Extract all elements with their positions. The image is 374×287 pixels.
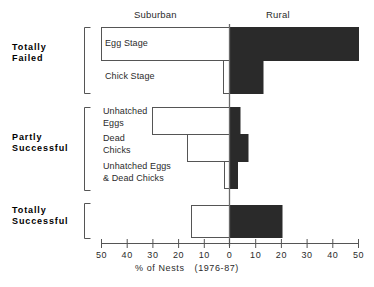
tick-label-zero: 0 — [217, 250, 243, 260]
group-label-line1: Partly — [12, 132, 69, 143]
bar-label-unhatched-eggs: Unhatched Eggs — [103, 106, 147, 129]
bar-rural-unhatched-eggs-and-dead-chicks — [230, 162, 238, 189]
bar-label-line2: Chicks — [103, 145, 131, 157]
group-bracket-totally-failed — [85, 28, 91, 94]
x-axis — [102, 239, 359, 248]
tick-label-minus-40: 40 — [114, 250, 140, 260]
bar-row-dead-chicks — [188, 135, 249, 162]
bar-rural-dead-chicks — [230, 135, 249, 162]
tick-label-minus-50: 50 — [89, 250, 115, 260]
tick-label-minus-10: 10 — [191, 250, 217, 260]
bar-row-unhatched-eggs — [153, 108, 241, 135]
tick-label-plus-40: 40 — [320, 250, 346, 260]
bar-row-totally-successful — [192, 206, 283, 238]
bar-suburban-chick-stage — [224, 61, 230, 94]
tick-label-plus-50: 50 — [346, 250, 372, 260]
bar-row-unhatched-eggs-and-dead-chicks — [225, 162, 238, 189]
group-label-line2: Failed — [12, 53, 47, 64]
bar-rural-egg-stage — [230, 28, 359, 61]
group-label-line2: Successful — [12, 143, 69, 154]
bar-rural-totally-successful — [230, 206, 283, 238]
bar-label-chick-stage: Chick Stage — [105, 71, 155, 83]
group-label-line2: Successful — [12, 216, 69, 227]
bar-label-line1: Unhatched Eggs — [103, 161, 171, 173]
group-label-totally-failed: Totally Failed — [12, 42, 47, 64]
tick-label-minus-20: 20 — [166, 250, 192, 260]
region-header-suburban: Suburban — [134, 9, 177, 20]
tick-label-minus-30: 30 — [140, 250, 166, 260]
bar-rural-chick-stage — [230, 61, 264, 94]
group-label-totally-successful: Totally Successful — [12, 205, 69, 227]
group-label-line1: Totally — [12, 42, 47, 53]
bar-label-egg-stage: Egg Stage — [105, 38, 148, 50]
bar-label-line1: Dead — [103, 133, 131, 145]
axis-title: % of Nests(1976-87) — [0, 263, 374, 273]
bar-suburban-unhatched-eggs-and-dead-chicks — [225, 162, 230, 189]
group-label-line1: Totally — [12, 205, 69, 216]
tick-label-plus-30: 30 — [294, 250, 320, 260]
group-label-partly-successful: Partly Successful — [12, 132, 69, 154]
axis-title-period: (1976-87) — [195, 263, 239, 273]
bar-label-unhatched-eggs-and-dead-chicks: Unhatched Eggs & Dead Chicks — [103, 161, 171, 184]
bar-label-dead-chicks: Dead Chicks — [103, 133, 131, 156]
tick-label-plus-20: 20 — [268, 250, 294, 260]
bar-suburban-totally-successful — [192, 206, 230, 238]
group-bracket-totally-successful — [85, 204, 91, 239]
bar-label-line1: Unhatched — [103, 106, 147, 118]
bar-label-line2: & Dead Chicks — [103, 173, 171, 185]
bar-rural-unhatched-eggs — [230, 108, 241, 135]
bar-suburban-unhatched-eggs — [153, 108, 230, 135]
bar-label-line2: Eggs — [103, 118, 147, 130]
axis-title-main: % of Nests — [135, 263, 185, 273]
tick-label-plus-10: 10 — [243, 250, 269, 260]
group-bracket-partly-successful — [85, 108, 91, 191]
bar-suburban-dead-chicks — [188, 135, 230, 162]
region-header-rural: Rural — [266, 9, 290, 20]
